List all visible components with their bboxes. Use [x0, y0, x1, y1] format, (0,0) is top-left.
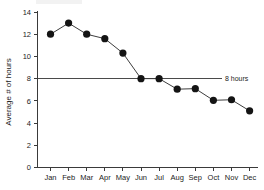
data-point-sep	[192, 85, 199, 92]
cropped-title-artifact	[36, 0, 82, 4]
x-tick-label-dec: Dec	[243, 173, 257, 182]
data-point-feb	[65, 20, 72, 27]
data-point-aug	[174, 86, 181, 93]
data-point-jul	[156, 75, 163, 82]
data-point-mar	[83, 31, 90, 38]
chart-container: Average # of hours 0 2 4 6 8 10 12 14	[0, 0, 264, 190]
y-axis-ticks: 0 2 4 6 8 10 12 14	[23, 8, 38, 173]
x-tick-label-may: May	[116, 173, 130, 182]
data-point-dec	[246, 107, 253, 114]
data-point-jan	[47, 31, 54, 38]
data-point-jun	[137, 75, 144, 82]
x-tick-label-mar: Mar	[80, 173, 93, 182]
x-axis-ticks: Jan Feb Mar Apr May Jun Jul Aug Sep Oct …	[44, 168, 256, 183]
threshold-label: 8 hours	[225, 75, 249, 82]
x-tick-label-sep: Sep	[189, 173, 202, 182]
y-tick-label-4: 4	[27, 119, 31, 128]
data-point-apr	[101, 35, 108, 42]
x-tick-label-jun: Jun	[135, 173, 147, 182]
data-point-nov	[228, 96, 235, 103]
x-tick-label-oct: Oct	[208, 173, 221, 182]
y-axis-title: Average # of hours	[4, 58, 13, 125]
x-tick-label-feb: Feb	[62, 173, 75, 182]
data-point-may	[119, 50, 126, 57]
x-tick-label-jan: Jan	[44, 173, 56, 182]
y-tick-label-14: 14	[23, 8, 31, 17]
x-tick-label-nov: Nov	[225, 173, 239, 182]
data-point-oct	[210, 97, 217, 104]
y-tick-label-8: 8	[27, 74, 31, 83]
y-tick-label-12: 12	[23, 30, 31, 39]
line-chart: Average # of hours 0 2 4 6 8 10 12 14	[0, 0, 264, 190]
y-tick-label-10: 10	[23, 52, 31, 61]
x-tick-label-apr: Apr	[99, 173, 111, 182]
y-tick-label-0: 0	[27, 163, 31, 172]
x-tick-label-aug: Aug	[171, 173, 184, 182]
y-tick-label-6: 6	[27, 97, 31, 106]
series-line-average-hours	[51, 23, 250, 111]
y-tick-label-2: 2	[27, 141, 31, 150]
x-tick-label-jul: Jul	[154, 173, 164, 182]
